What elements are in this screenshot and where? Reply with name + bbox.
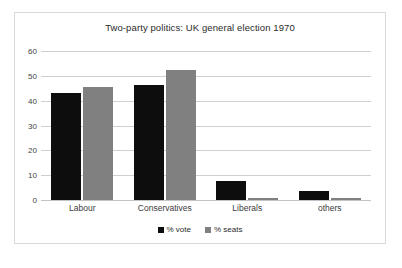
x-tick-label: others	[289, 203, 372, 213]
y-axis: 0102030405060	[15, 51, 37, 200]
y-tick-label-20: 20	[15, 146, 37, 155]
black-square-icon	[158, 227, 164, 233]
bar-group	[216, 51, 278, 200]
x-tick-label: Labour	[41, 203, 124, 213]
grey-square-icon	[205, 227, 211, 233]
chart-title: Two-party politics: UK general election …	[15, 22, 385, 33]
bar	[134, 85, 164, 200]
legend-item: % seats	[205, 225, 242, 234]
x-tick-label: Conservatives	[124, 203, 207, 213]
bar	[216, 181, 246, 200]
bar	[166, 70, 196, 200]
y-tick-label-30: 30	[15, 121, 37, 130]
legend-label: % vote	[167, 225, 191, 234]
legend-item: % vote	[158, 225, 191, 234]
gridline-0	[41, 200, 371, 201]
bar-group	[134, 51, 196, 200]
legend-label: % seats	[214, 225, 242, 234]
plot-area	[41, 51, 371, 200]
chart-legend: % vote% seats	[15, 225, 385, 234]
x-tick-label: Liberals	[206, 203, 289, 213]
y-tick-label-10: 10	[15, 171, 37, 180]
y-tick-label-0: 0	[15, 196, 37, 205]
bar-group	[299, 51, 361, 200]
bars-layer	[41, 51, 371, 200]
bar	[299, 191, 329, 200]
bar	[248, 198, 278, 200]
bar	[83, 87, 113, 200]
y-tick-label-40: 40	[15, 96, 37, 105]
y-tick-label-50: 50	[15, 71, 37, 80]
x-axis-category-labels: LabourConservativesLiberalsothers	[41, 203, 371, 219]
bar-group	[51, 51, 113, 200]
chart-container: Two-party politics: UK general election …	[14, 12, 386, 244]
bar	[51, 93, 81, 200]
bar	[331, 198, 361, 200]
y-tick-label-60: 60	[15, 47, 37, 56]
